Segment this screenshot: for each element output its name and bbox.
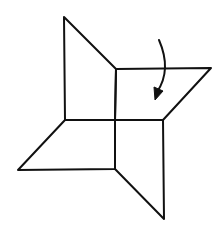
fold-arrow-icon: [154, 40, 165, 100]
left-flap: [18, 120, 115, 170]
top-flap: [64, 17, 116, 120]
fold-arrow-head: [154, 87, 163, 100]
right-flap: [115, 68, 211, 120]
pinwheel-fold-diagram: [0, 0, 223, 236]
diagram-canvas: [0, 0, 223, 236]
bottom-flap: [115, 120, 164, 219]
flaps-group: [18, 17, 211, 219]
fold-arrow-shaft: [157, 40, 165, 92]
